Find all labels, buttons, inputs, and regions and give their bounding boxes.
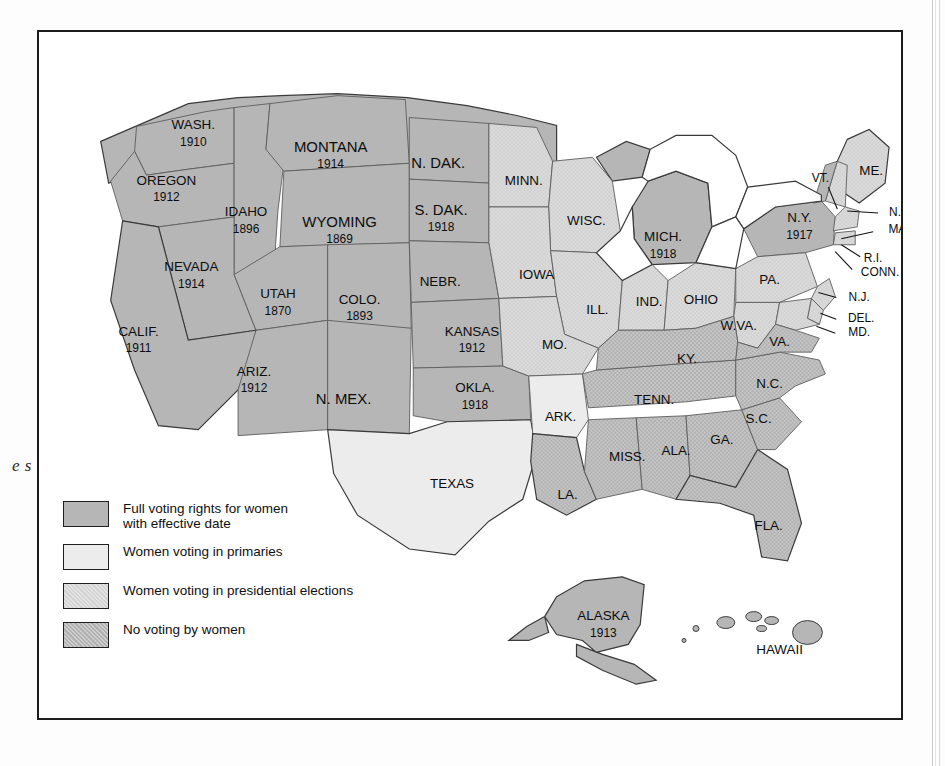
state-label-nc: N.C.	[756, 376, 783, 391]
leader-line	[816, 326, 835, 333]
state-name: ARIZ.	[237, 364, 271, 379]
state-effective-date: 1910	[180, 135, 207, 149]
state-name: WYOMING	[302, 213, 377, 230]
map-frame: WASH.1910OREGON1912IDAHO1896MONTANA1914W…	[37, 30, 903, 720]
state-name: OKLA.	[455, 380, 495, 395]
leader-line	[835, 252, 852, 270]
state-name: COLO.	[339, 292, 381, 307]
state-name: NEVADA	[164, 259, 218, 274]
state-label-ohio: OHIO	[684, 292, 718, 307]
state-name: UTAH	[260, 286, 296, 301]
state-name: NEBR.	[420, 274, 461, 289]
state-label-ala: ALA.	[661, 443, 690, 458]
state-name: IND.	[636, 294, 663, 309]
state-label-miss: MISS.	[609, 449, 646, 464]
state-effective-date: 1870	[265, 304, 292, 318]
state-name: N.Y.	[787, 210, 811, 225]
state-effective-date: 1911	[126, 341, 152, 355]
legend-swatch-presidential	[63, 583, 109, 609]
state-effective-date: 1918	[428, 220, 455, 234]
legend-label-primaries: Women voting in primaries	[123, 543, 283, 559]
state-name: GA.	[710, 432, 733, 447]
state-name: OHIO	[684, 292, 718, 307]
callout-del: DEL.	[820, 311, 874, 325]
page-binding-line	[932, 0, 933, 766]
callout-label: N.H.	[889, 205, 901, 219]
callout-label: R.I.	[864, 251, 883, 265]
state-name: TEXAS	[430, 476, 474, 491]
state-label-sc: S.C.	[746, 411, 772, 426]
state-label-ill: ILL.	[586, 302, 608, 317]
legend-label-none: No voting by women	[123, 621, 245, 637]
callout-label: MD.	[848, 325, 870, 339]
callout-label: DEL.	[848, 311, 875, 325]
callout-ri: R.I.	[841, 245, 882, 265]
state-name: PA.	[759, 272, 780, 287]
state-effective-date: 1912	[459, 341, 486, 355]
state-label-va: VA.	[769, 334, 790, 349]
page-binding-line-2	[935, 0, 936, 766]
legend-row-none: No voting by women	[63, 621, 393, 648]
state-name: MINN.	[505, 173, 543, 188]
state-effective-date: 1914	[317, 157, 344, 171]
state-name: S.C.	[746, 411, 772, 426]
state-label-mo: MO.	[542, 337, 567, 352]
state-name: ME.	[859, 163, 883, 178]
state-name: IOWA	[519, 267, 554, 282]
legend-row-primaries: Women voting in primaries	[63, 543, 393, 570]
inset-effective-date: 1913	[590, 626, 617, 640]
state-name: VA.	[769, 334, 790, 349]
inset-label-hawaii: HAWAII	[756, 642, 803, 657]
state-effective-date: 1912	[241, 381, 268, 395]
inset-name: ALASKA	[577, 608, 629, 623]
inset-name: HAWAII	[756, 642, 803, 657]
state-effective-date: 1917	[786, 228, 813, 242]
state-name: MONTANA	[294, 138, 368, 155]
state-label-iowa: IOWA	[519, 267, 554, 282]
state-name: LA.	[557, 487, 577, 502]
legend-row-presidential: Women voting in presidential elections	[63, 582, 393, 609]
state-name: WASH.	[172, 117, 215, 132]
state-label-nebr: NEBR.	[420, 274, 461, 289]
state-effective-date: 1914	[178, 277, 205, 291]
legend-label-full: Full voting rights for women with effect…	[123, 500, 288, 531]
state-label-tenn: TENN.	[634, 392, 674, 407]
state-name: N. DAK.	[411, 154, 465, 171]
state-name: FLA.	[754, 518, 782, 533]
leader-line	[841, 245, 860, 257]
state-effective-date: 1896	[233, 222, 260, 236]
state-label-ndak: N. DAK.	[411, 154, 465, 171]
state-name: WISC.	[567, 213, 606, 228]
state-label-ind: IND.	[636, 294, 663, 309]
map-legend: Full voting rights for women with effect…	[63, 500, 393, 660]
state-label-wisc: WISC.	[567, 213, 606, 228]
state-effective-date: 1912	[153, 190, 180, 204]
state-label-me: ME.	[859, 163, 883, 178]
legend-swatch-full	[63, 501, 109, 527]
state-name: OREGON	[137, 173, 197, 188]
state-effective-date: 1869	[326, 232, 353, 246]
state-name: MO.	[542, 337, 567, 352]
callout-label: N.J.	[849, 290, 870, 304]
state-name: MISS.	[609, 449, 646, 464]
page-binding-line-3	[939, 0, 940, 766]
state-name: ARK.	[545, 409, 576, 424]
cropped-caption-fragment: e s	[0, 452, 32, 480]
state-label-wva: W.VA.	[721, 318, 757, 333]
state-name: S. DAK.	[415, 201, 468, 218]
state-name: ALA.	[661, 443, 690, 458]
state-label-ga: GA.	[710, 432, 733, 447]
state-name: CALIF.	[118, 324, 158, 339]
state-name: TENN.	[634, 392, 674, 407]
legend-swatch-none	[63, 622, 109, 648]
state-name: N. MEX.	[316, 390, 372, 407]
state-name: ILL.	[586, 302, 608, 317]
state-name: KANSAS	[445, 324, 499, 339]
state-name: KY.	[677, 351, 697, 366]
legend-label-presidential: Women voting in presidential elections	[123, 582, 353, 598]
book-page: e s	[0, 0, 945, 766]
state-effective-date: 1893	[346, 309, 373, 323]
callout-label: MASS.	[888, 222, 901, 236]
state-label-ky: KY.	[677, 351, 697, 366]
inset-labels: ALASKA1913HAWAII	[577, 608, 803, 657]
